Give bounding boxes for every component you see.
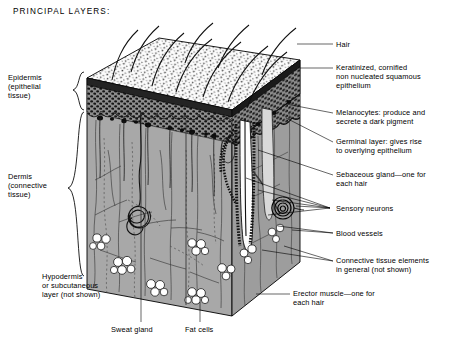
label-connective-tissue: Connective tissue elements in general (n… <box>336 256 429 274</box>
brace-dermis <box>68 112 84 276</box>
label-germinal-layer: Germinal layer: gives rise to overlying … <box>336 137 422 155</box>
label-sweat-gland: Sweat gland <box>111 325 153 334</box>
label-sebaceous-gland: Sebaceous gland—one for each hair <box>336 170 426 188</box>
label-fat-cells: Fat cells <box>185 325 213 334</box>
skin-block <box>87 23 304 316</box>
figure-principal-layers-of-skin: PRINCIPAL LAYERS: <box>0 0 455 341</box>
label-erector-muscle: Erector muscle—one for each hair <box>293 289 375 307</box>
label-sensory-neurons: Sensory neurons <box>336 204 393 213</box>
label-melanocytes: Melanocytes: produce and secrete a dark … <box>336 108 425 126</box>
brace-label-epidermis: Epidermis (epithelial tissue) <box>8 73 42 101</box>
label-hair: Hair <box>336 40 350 49</box>
brace-epidermis <box>73 72 84 110</box>
label-blood-vessels: Blood vessels <box>336 229 383 238</box>
brace-label-dermis: Dermis (connective tissue) <box>8 172 47 200</box>
label-keratinized-epithelium: Keratinized, cornified non nucleated squ… <box>336 63 421 91</box>
label-hypodermis: Hypodermis or subcutaneous layer (not sh… <box>42 272 100 300</box>
